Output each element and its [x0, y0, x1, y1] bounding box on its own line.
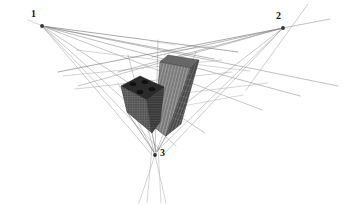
vp2-ray-overshoot-right — [283, 19, 330, 28]
vp2-ray-c — [152, 28, 283, 57]
vanishing-point-2-label: 2 — [276, 11, 281, 21]
vanishing-point-1-label: 1 — [31, 9, 36, 19]
low-block — [121, 76, 164, 133]
vanishing-point-2-dot[interactable] — [281, 26, 285, 30]
rooftop-unit-4 — [149, 87, 155, 91]
rooftop-unit-1 — [130, 82, 136, 86]
vp2-ray-b — [118, 28, 283, 72]
vanishing-point-1-dot[interactable] — [40, 24, 44, 28]
perspective-drawing-canvas: 1 2 3 — [0, 0, 344, 205]
vp3-ray-below-a — [139, 155, 155, 203]
building-group — [121, 55, 199, 152]
rooftop-unit-2 — [142, 80, 148, 84]
vp3-ray-below-c — [147, 147, 152, 203]
rooftop-unit-3 — [137, 90, 143, 94]
perspective-scene — [0, 0, 344, 205]
vp1-ray-to-tower-eave — [42, 26, 214, 59]
vanishing-point-3-dot[interactable] — [153, 153, 157, 157]
vanishing-point-3-label: 3 — [160, 148, 165, 158]
vp1-ray-short-upper — [28, 20, 60, 33]
